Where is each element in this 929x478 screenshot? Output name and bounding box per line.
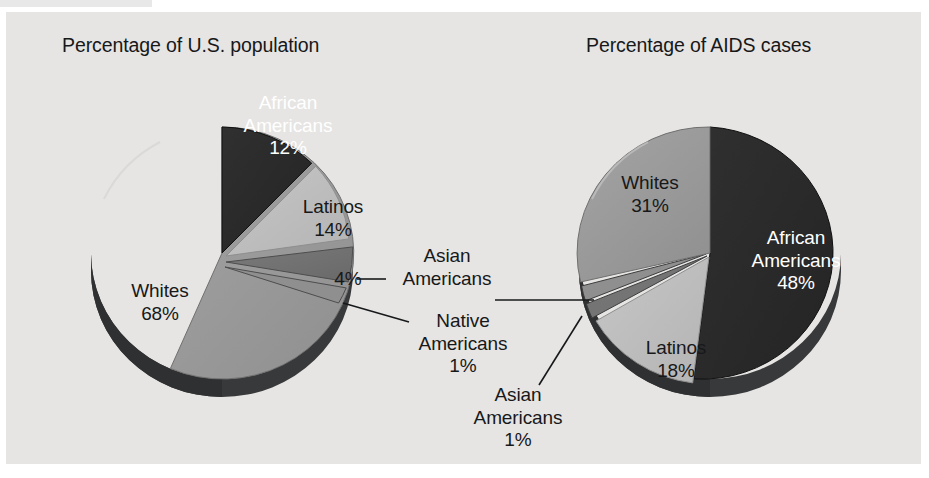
label-left-native-americans-line2: Americans bbox=[403, 333, 523, 356]
label-left-asian-americans-value: 4% bbox=[319, 268, 377, 291]
label-left-whites-name: Whites bbox=[104, 280, 216, 303]
figure-root: Percentage of U.S. population Percentage… bbox=[0, 0, 929, 478]
label-right-asian-americans-line1: Asian bbox=[457, 384, 579, 407]
label-right-african-americans-line2: Americans bbox=[722, 250, 870, 273]
label-left-african-americans: African Americans 12% bbox=[214, 92, 362, 160]
label-right-whites-value: 31% bbox=[597, 195, 703, 218]
label-right-latinos-value: 18% bbox=[622, 360, 730, 383]
label-left-latinos-value: 14% bbox=[281, 219, 385, 242]
label-left-asian-americans: Asian Americans bbox=[388, 245, 506, 290]
label-right-whites-name: Whites bbox=[597, 172, 703, 195]
label-left-native-americans: Native Americans 1% bbox=[403, 310, 523, 378]
label-right-latinos: Latinos 18% bbox=[622, 337, 730, 382]
label-left-native-americans-value: 1% bbox=[403, 355, 523, 378]
label-right-asian-americans-value: 1% bbox=[457, 429, 579, 452]
label-left-african-americans-value: 12% bbox=[214, 137, 362, 160]
label-left-asian-americans-value-text: 4% bbox=[319, 268, 377, 291]
label-left-whites-value: 68% bbox=[104, 303, 216, 326]
label-left-asian-americans-line2: Americans bbox=[388, 268, 506, 291]
label-left-native-americans-line1: Native bbox=[403, 310, 523, 333]
label-right-african-americans: African Americans 48% bbox=[722, 227, 870, 295]
label-left-whites: Whites 68% bbox=[104, 280, 216, 325]
label-right-latinos-name: Latinos bbox=[622, 337, 730, 360]
label-left-latinos-name: Latinos bbox=[281, 196, 385, 219]
label-right-asian-americans: Asian Americans 1% bbox=[457, 384, 579, 452]
label-right-african-americans-value: 48% bbox=[722, 272, 870, 295]
label-right-asian-americans-line2: Americans bbox=[457, 407, 579, 430]
label-right-african-americans-line1: African bbox=[722, 227, 870, 250]
pie-chart-us-population bbox=[91, 127, 354, 397]
label-left-latinos: Latinos 14% bbox=[281, 196, 385, 241]
pie-left-rim-highlight bbox=[104, 142, 160, 199]
label-left-african-americans-line1: African bbox=[214, 92, 362, 115]
label-left-african-americans-line2: Americans bbox=[214, 115, 362, 138]
chart-title-us-population: Percentage of U.S. population bbox=[62, 34, 319, 57]
leader-line-left-native-americans bbox=[343, 303, 409, 322]
label-right-whites: Whites 31% bbox=[597, 172, 703, 217]
chart-title-aids-cases: Percentage of AIDS cases bbox=[586, 34, 811, 57]
leader-line-right-asian-americans bbox=[539, 316, 582, 385]
label-left-asian-americans-line1: Asian bbox=[388, 245, 506, 268]
